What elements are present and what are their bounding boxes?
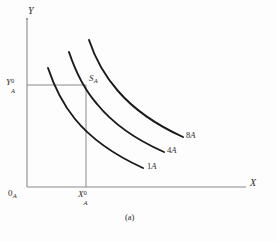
origin-label-subscript: A [13,192,17,199]
curve-label-4a-suffix: A [171,145,176,155]
figure-caption: (a) [125,213,134,222]
point-label-sa: SA [89,74,98,84]
chart-canvas [0,0,277,242]
x-tick-subscript: A [84,200,88,207]
curve-label-8a-suffix: A [190,130,195,140]
x-tick-label-x0a: X0A [78,190,89,199]
point-label-base: S [89,73,94,83]
origin-label: 0A [8,189,17,199]
curve-label-1a: 1A [147,162,156,171]
y-tick-superscript: 0 [11,78,14,85]
x-tick-superscript: 0 [84,190,87,197]
y-axis-label: Y [28,6,34,16]
point-label-subscript: A [94,77,98,84]
y-tick-label-y0a: Y0A [6,78,16,87]
indifference-curve-figure: Y X 0A Y0A X0A SA 1A 4A 8A (a) [0,0,277,242]
origin-label-base: 0 [8,188,13,198]
x-axis-label: X [250,178,256,188]
y-tick-subscript: A [11,88,15,95]
indifference-curve-4a [69,52,164,152]
curve-label-1a-suffix: A [151,161,156,171]
curve-label-4a: 4A [167,146,176,155]
indifference-curve-8a [89,40,183,137]
curve-label-8a: 8A [186,131,195,140]
